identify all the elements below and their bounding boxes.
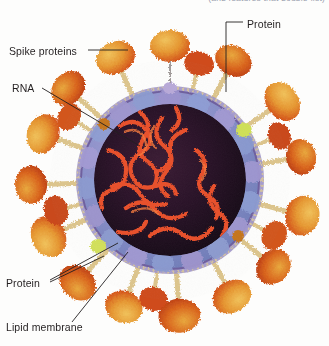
label-rna: RNA xyxy=(12,82,34,94)
label-protein-bottom: Protein xyxy=(6,277,40,289)
texture-overlay xyxy=(50,60,290,300)
label-protein-top: Protein xyxy=(247,18,281,30)
label-spike-proteins: Spike proteins xyxy=(9,45,77,57)
virus-diagram-figure: (and features that double-list) xyxy=(0,0,329,346)
label-lipid-membrane: Lipid membrane xyxy=(6,321,83,333)
